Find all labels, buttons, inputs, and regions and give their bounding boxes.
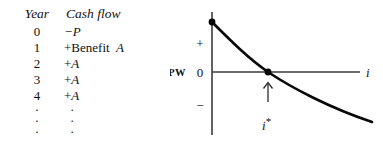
- cell-flow-1: +Benefit A: [60, 40, 164, 56]
- table-header-row: Year Cash flow: [14, 6, 164, 24]
- cell-flow-3: +A: [60, 72, 164, 88]
- chart-canvas: + − 0 NPW i i*: [170, 0, 383, 146]
- continuation-dot-flow: ·: [60, 126, 164, 137]
- cell-flow-0: −P: [60, 24, 164, 40]
- cell-flow-2-var: A: [71, 56, 79, 71]
- cell-year-3: 3: [14, 72, 60, 88]
- table-row: 1 +Benefit A: [14, 40, 164, 56]
- irr-root-label: i*: [262, 115, 271, 133]
- cell-flow-3-var: A: [71, 72, 79, 87]
- y-axis-title: NPW: [170, 67, 186, 78]
- x-axis-title: i: [366, 65, 370, 80]
- cell-flow-0-value: −P: [64, 24, 81, 39]
- table-continuation-row: · ·: [14, 126, 164, 137]
- cell-flow-4-var: A: [71, 88, 79, 103]
- cash-flow-and-npw-figure: Year Cash flow 0 −P 1 +Benefit A 2 +A 3 …: [0, 0, 383, 146]
- irr-arrow-icon: [264, 83, 273, 103]
- cell-year-2: 2: [14, 56, 60, 72]
- column-header-year: Year: [14, 6, 60, 22]
- table-row: 3 +A: [14, 72, 164, 88]
- continuation-dot-flow: ·: [60, 104, 164, 115]
- cash-flow-table: Year Cash flow 0 −P 1 +Benefit A 2 +A 3 …: [14, 6, 164, 137]
- cell-year-1: 1: [14, 40, 60, 56]
- irr-root-point-marker: [265, 69, 272, 76]
- cell-flow-2: +A: [60, 56, 164, 72]
- cell-flow-1-word: Benefit: [71, 40, 109, 55]
- continuation-dot-year: ·: [14, 126, 60, 137]
- negative-axis-label: −: [196, 98, 203, 113]
- irr-root-label-star: *: [266, 115, 272, 127]
- initial-npw-point-marker: [209, 19, 216, 26]
- cell-flow-1-var: A: [116, 40, 124, 55]
- cell-flow-4: +A: [60, 88, 164, 104]
- column-header-cash-flow: Cash flow: [60, 6, 164, 22]
- table-row: 2 +A: [14, 56, 164, 72]
- npw-vs-interest-rate-chart: + − 0 NPW i i*: [170, 0, 383, 146]
- zero-axis-label: 0: [197, 65, 204, 80]
- cell-year-0: 0: [14, 24, 60, 40]
- positive-axis-label: +: [196, 36, 203, 51]
- table-row: 0 −P: [14, 24, 164, 40]
- continuation-dot-flow: ·: [60, 115, 164, 126]
